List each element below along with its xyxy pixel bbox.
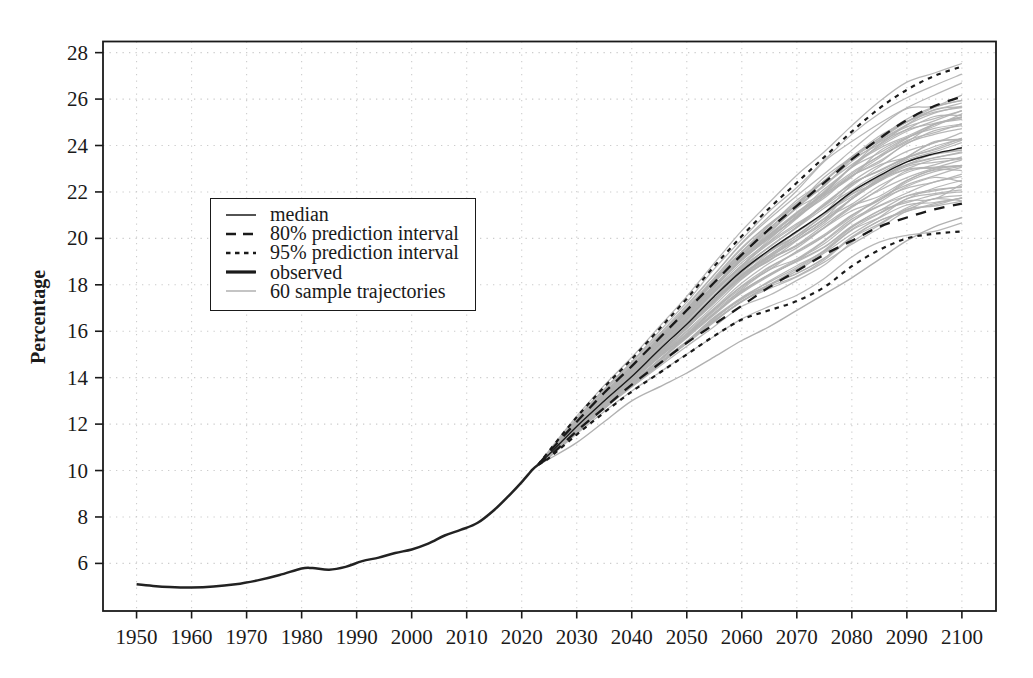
- legend-row-pi95: 95% prediction interval: [224, 243, 475, 262]
- x-tick-label: 1960: [171, 625, 213, 649]
- legend-sample-pi80-line: [224, 230, 258, 238]
- x-tick-label: 2080: [831, 625, 873, 649]
- legend-sample-pi95-line: [224, 249, 258, 257]
- x-tick-label: 2090: [886, 625, 928, 649]
- x-tick-label: 2020: [501, 625, 543, 649]
- legend-sample-median-line: [224, 211, 258, 219]
- sample-trajectory-line: [538, 150, 962, 464]
- legend-label-median: median: [270, 205, 329, 224]
- y-tick-label: 6: [78, 551, 89, 575]
- median-line: [538, 148, 962, 465]
- x-tick-label: 2030: [556, 625, 598, 649]
- legend-label-pi80: 80% prediction interval: [270, 224, 459, 243]
- x-tick-label: 2010: [446, 625, 488, 649]
- plot-border: [103, 42, 996, 612]
- sample-trajectory-line: [538, 174, 962, 465]
- legend-sample-trajectories-line: [224, 287, 258, 295]
- y-axis-title: Percentage: [27, 270, 50, 364]
- sample-trajectory-line: [538, 180, 962, 464]
- chart-canvas: 1950196019701980199020002010202020302040…: [0, 0, 1033, 678]
- legend: median 80% prediction interval 95% predi…: [210, 198, 476, 311]
- y-tick-label: 8: [78, 505, 89, 529]
- legend-label-pi95: 95% prediction interval: [270, 243, 459, 262]
- x-tick-label: 1980: [281, 625, 323, 649]
- gridlines: [103, 42, 996, 612]
- sample-trajectory-line: [538, 160, 962, 465]
- sample-trajectory-line: [538, 198, 962, 465]
- y-tick-label: 28: [67, 41, 88, 65]
- y-tick-label: 16: [67, 319, 88, 343]
- y-tick-label: 18: [67, 273, 88, 297]
- observed-line: [137, 465, 539, 588]
- x-tick-label: 1950: [116, 625, 158, 649]
- sample-trajectory-line: [538, 198, 962, 465]
- sample-trajectory-line: [538, 199, 962, 465]
- y-tick-label: 10: [67, 459, 88, 483]
- x-tick-label: 2070: [776, 625, 818, 649]
- y-tick-label: 14: [67, 366, 89, 390]
- x-tick-label: 2040: [611, 625, 653, 649]
- sample-trajectory-line: [538, 184, 962, 465]
- x-tick-label: 2100: [941, 625, 983, 649]
- y-tick-label: 22: [67, 180, 88, 204]
- y-tick-label: 26: [67, 87, 88, 111]
- x-tick-label: 2060: [721, 625, 763, 649]
- legend-label-trajectories: 60 sample trajectories: [270, 282, 446, 301]
- x-tick-label: 2050: [666, 625, 708, 649]
- legend-row-observed: observed: [224, 263, 475, 282]
- y-tick-label: 12: [67, 412, 88, 436]
- x-tick-label: 2000: [391, 625, 433, 649]
- projection-chart-figure: 1950196019701980199020002010202020302040…: [0, 0, 1033, 678]
- legend-label-observed: observed: [270, 263, 342, 282]
- legend-row-trajectories: 60 sample trajectories: [224, 282, 475, 301]
- x-tick-label: 1970: [226, 625, 268, 649]
- x-tick-label: 1990: [336, 625, 378, 649]
- legend-sample-observed-line: [224, 268, 258, 276]
- low-outlier-trajectory-line: [538, 218, 962, 465]
- y-tick-label: 20: [67, 226, 88, 250]
- y-tick-label: 24: [67, 134, 89, 158]
